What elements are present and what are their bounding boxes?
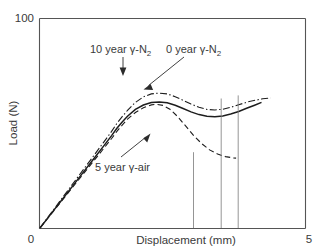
chart-background bbox=[0, 0, 329, 252]
y-axis-max-tick-label: 100 bbox=[15, 12, 34, 24]
load-displacement-chart: 100 0 5 Displacement (mm) Load (N) bbox=[0, 0, 329, 252]
annotation-10-year-gamma: γ-N bbox=[130, 43, 147, 55]
annotation-10-year-prefix: 10 year bbox=[90, 43, 130, 55]
annotation-5-year-gamma-air: 5 year γ-air bbox=[95, 161, 150, 173]
annotation-0-year-subscript: 2 bbox=[217, 49, 222, 58]
x-axis-title: Displacement (mm) bbox=[136, 234, 236, 246]
y-axis-title: Load (N) bbox=[7, 100, 19, 145]
annotation-10-year-subscript: 2 bbox=[147, 49, 152, 58]
annotation-0-year-gamma: γ-N bbox=[200, 43, 217, 55]
annotation-0-year-prefix: 0 year bbox=[166, 43, 200, 55]
annotation-5-year-prefix: 5 year bbox=[95, 161, 129, 173]
x-axis-max-tick-label: 5 bbox=[306, 233, 312, 245]
chart-svg: 100 0 5 Displacement (mm) Load (N) bbox=[0, 0, 329, 252]
annotation-5-year-gamma: γ-air bbox=[129, 161, 151, 173]
x-axis-min-tick-label: 0 bbox=[28, 233, 34, 245]
